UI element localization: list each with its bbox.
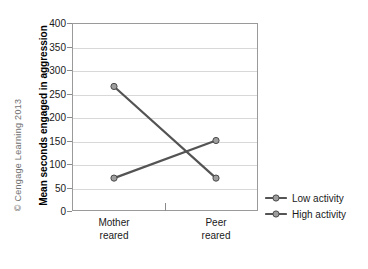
legend-item: Low activity xyxy=(265,190,346,206)
gridline xyxy=(73,189,257,190)
legend-item: High activity xyxy=(265,206,346,222)
y-tick-label: 300 xyxy=(26,65,66,76)
chart-figure: © Cengage Learning 2013 Mean seconds eng… xyxy=(0,0,368,269)
y-tick-mark xyxy=(67,211,72,212)
gridline xyxy=(73,71,257,72)
plot-area xyxy=(72,23,258,211)
y-tick-label: 400 xyxy=(26,18,66,29)
x-axis-label-mother-reared: Motherreared xyxy=(69,216,159,242)
x-axis-label-line: reared xyxy=(69,229,159,242)
y-tick-label: 350 xyxy=(26,41,66,52)
gridline xyxy=(73,165,257,166)
y-tick-label: 50 xyxy=(26,182,66,193)
y-tick-label: 200 xyxy=(26,112,66,123)
legend-label: High activity xyxy=(292,209,346,220)
y-tick-label: 100 xyxy=(26,159,66,170)
x-axis-label-line: Mother xyxy=(69,216,159,229)
gridline xyxy=(73,48,257,49)
legend: Low activityHigh activity xyxy=(265,190,346,222)
legend-marker-icon xyxy=(265,208,287,220)
y-tick-label: 150 xyxy=(26,135,66,146)
x-axis-center-tick xyxy=(165,203,166,211)
legend-label: Low activity xyxy=(292,193,344,204)
gridline xyxy=(73,118,257,119)
legend-marker-icon xyxy=(265,192,287,204)
gridline xyxy=(73,142,257,143)
x-axis-label-line: Peer xyxy=(171,216,261,229)
copyright-credit: © Cengage Learning 2013 xyxy=(13,90,23,220)
gridline xyxy=(73,95,257,96)
x-axis-label-peer-reared: Peerreared xyxy=(171,216,261,242)
y-tick-label: 250 xyxy=(26,88,66,99)
x-axis-label-line: reared xyxy=(171,229,261,242)
y-tick-label: 0 xyxy=(26,206,66,217)
